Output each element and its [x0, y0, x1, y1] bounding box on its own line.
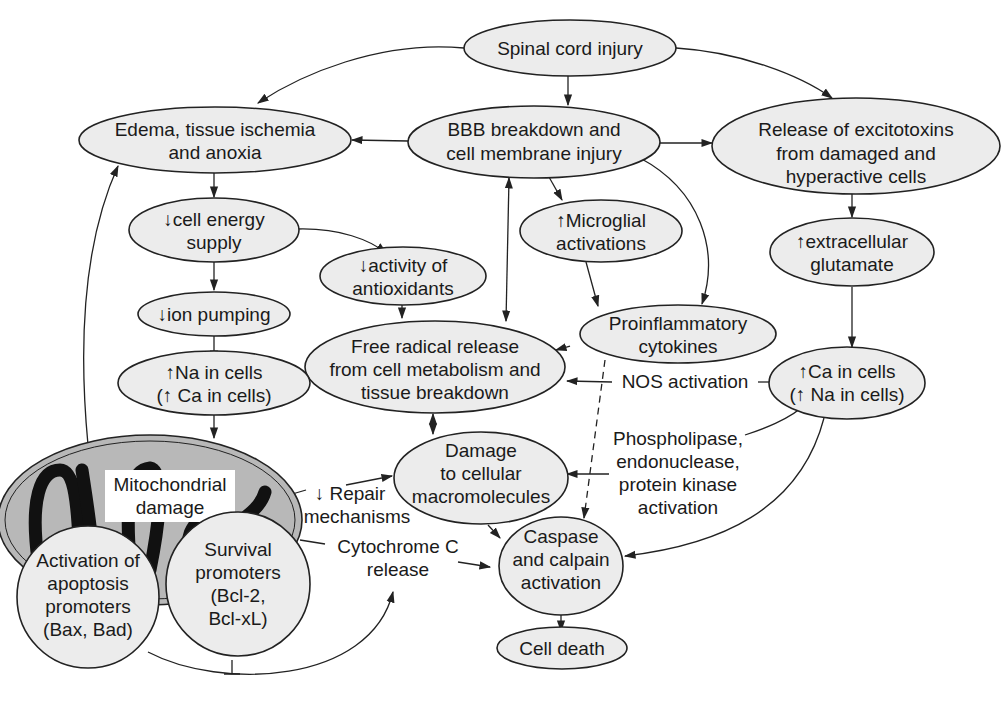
edge-macromolecules-to-caspase — [488, 525, 500, 538]
svg-text:antioxidants: antioxidants — [352, 278, 453, 299]
svg-text:hyperactive cells: hyperactive cells — [786, 166, 926, 187]
svg-text:BBB breakdown and: BBB breakdown and — [447, 119, 620, 140]
edge-cytokines-to-freeradical — [556, 346, 570, 350]
edge-bbb-to-microglial — [549, 177, 562, 200]
edge-nos-to-freeradical — [567, 381, 612, 382]
svg-text:protein kinase: protein kinase — [619, 474, 737, 495]
svg-text:↓activity of: ↓activity of — [359, 255, 448, 276]
edge-label-phospholipase: Phospholipase, endonuclease, protein kin… — [613, 428, 743, 518]
svg-text:apoptosis: apoptosis — [47, 573, 128, 594]
edge-sci-to-excitotoxins — [676, 48, 832, 98]
node-extracellular-glutamate: ↑extracellular glutamate — [770, 218, 934, 286]
node-cell-death: Cell death — [497, 627, 627, 669]
svg-text:↓cell energy: ↓cell energy — [163, 209, 265, 230]
edge-cytochrome-to-caspase — [458, 562, 490, 567]
svg-text:glutamate: glutamate — [810, 254, 893, 275]
edge-label-repair: ↓ Repair mechanisms — [304, 483, 411, 527]
edge-mito-to-cytochrome — [300, 540, 325, 544]
node-ion-pumping: ↓ion pumping — [138, 292, 290, 336]
svg-text:Activation of: Activation of — [36, 550, 140, 571]
node-caspase-calpain: Caspase and calpain activation — [499, 517, 623, 615]
svg-text:Bcl-xL): Bcl-xL) — [208, 608, 267, 629]
node-cell-energy-supply: ↓cell energy supply — [129, 198, 299, 262]
svg-text:Phospholipase,: Phospholipase, — [613, 428, 743, 449]
node-microglial: ↑Microglial activations — [520, 200, 682, 262]
node-apoptosis-promoters: Activation of apoptosis promoters (Bax, … — [17, 526, 159, 668]
node-proinflammatory-cytokines: Proinflammatory cytokines — [580, 305, 776, 363]
edge-label-nos: NOS activation — [612, 368, 758, 392]
svg-text:and calpain: and calpain — [512, 549, 609, 570]
svg-text:mechanisms: mechanisms — [304, 506, 411, 527]
edge-bbb-freeradical-bidirectional — [506, 178, 509, 321]
svg-text:Release of excitotoxins: Release of excitotoxins — [758, 119, 953, 140]
diagram-canvas: Spinal cord injury Edema, tissue ischemi… — [0, 0, 1007, 703]
svg-text:to cellular: to cellular — [440, 463, 522, 484]
node-free-radical-release: Free radical release from cell metabolis… — [305, 321, 565, 413]
svg-text:(Bax, Bad): (Bax, Bad) — [43, 619, 133, 640]
node-ca-in-cells: ↑Ca in cells (↑ Na in cells) — [769, 347, 925, 419]
svg-text:from damaged and: from damaged and — [776, 143, 936, 164]
svg-text:Caspase: Caspase — [524, 526, 599, 547]
svg-text:promoters: promoters — [195, 562, 281, 583]
svg-text:supply: supply — [187, 232, 242, 253]
edge-label-cytochrome: Cytochrome C release — [337, 536, 458, 580]
edge-survival-inhibits — [224, 660, 240, 674]
svg-text:damage: damage — [136, 497, 205, 518]
svg-text:cytokines: cytokines — [638, 336, 717, 357]
svg-text:↑Microglial: ↑Microglial — [556, 210, 646, 231]
svg-text:activation: activation — [521, 572, 601, 593]
svg-text:release: release — [367, 559, 429, 580]
svg-text:endonuclease,: endonuclease, — [616, 451, 740, 472]
svg-text:Damage: Damage — [445, 440, 517, 461]
node-antioxidants: ↓activity of antioxidants — [320, 247, 486, 305]
node-damage-macromolecules: Damage to cellular macromolecules — [394, 432, 568, 524]
edge-mito-to-edema — [84, 166, 118, 445]
node-excitotoxins: Release of excitotoxins from damaged and… — [712, 98, 1000, 194]
svg-text:Cytochrome C: Cytochrome C — [337, 536, 458, 557]
svg-text:Mitochondrial: Mitochondrial — [114, 474, 227, 495]
svg-text:NOS activation: NOS activation — [622, 371, 749, 392]
svg-text:Cell death: Cell death — [519, 638, 605, 659]
edge-microglial-to-cytokines — [586, 262, 598, 306]
svg-text:Proinflammatory: Proinflammatory — [609, 313, 748, 334]
svg-text:tissue breakdown: tissue breakdown — [361, 382, 509, 403]
svg-text:activation: activation — [638, 497, 718, 518]
svg-text:↓ion pumping: ↓ion pumping — [157, 304, 270, 325]
edge-bbb-to-edema — [352, 140, 408, 141]
svg-text:Survival: Survival — [204, 539, 272, 560]
svg-text:↓ Repair: ↓ Repair — [315, 483, 386, 504]
svg-text:cell membrane injury: cell membrane injury — [446, 143, 622, 164]
svg-text:promoters: promoters — [45, 596, 131, 617]
node-bbb-breakdown: BBB breakdown and cell membrane injury — [408, 106, 660, 178]
svg-text:↑extracellular: ↑extracellular — [796, 231, 909, 252]
svg-text:↑Ca in cells: ↑Ca in cells — [798, 361, 895, 382]
edge-sci-to-edema — [258, 47, 464, 103]
svg-text:↑Na in cells: ↑Na in cells — [165, 362, 262, 383]
svg-text:Free radical release: Free radical release — [351, 336, 519, 357]
svg-text:and anoxia: and anoxia — [169, 142, 262, 163]
svg-text:(Bcl-2,: (Bcl-2, — [211, 585, 266, 606]
node-edema: Edema, tissue ischemia and anoxia — [79, 107, 351, 173]
svg-text:(↑ Ca in cells): (↑ Ca in cells) — [156, 385, 271, 406]
node-survival-promoters: Survival promoters (Bcl-2, Bcl-xL) — [166, 512, 310, 656]
svg-text:(↑ Na in cells): (↑ Na in cells) — [789, 384, 904, 405]
svg-text:Edema, tissue ischemia: Edema, tissue ischemia — [115, 119, 316, 140]
node-spinal-cord-injury: Spinal cord injury — [464, 20, 676, 76]
svg-text:Spinal cord injury: Spinal cord injury — [497, 38, 643, 59]
edge-cytokines-to-caspase-dashed — [584, 360, 605, 518]
svg-text:from cell metabolism and: from cell metabolism and — [329, 359, 540, 380]
svg-text:activations: activations — [556, 233, 646, 254]
node-na-in-cells: ↑Na in cells (↑ Ca in cells) — [118, 351, 310, 415]
svg-text:macromolecules: macromolecules — [412, 486, 550, 507]
